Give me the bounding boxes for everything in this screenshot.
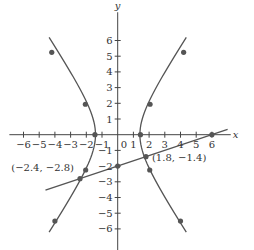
y-tick-label: 2: [106, 98, 112, 109]
data-point: [181, 50, 186, 55]
labels: −6−5−4−3−2−1123456−6−5−4−3−2−11234560xy(…: [11, 0, 238, 234]
intersection-label: (1.8, −1.4): [152, 152, 206, 163]
data-point: [92, 132, 97, 137]
y-tick-label: 5: [106, 51, 112, 62]
x-tick-label: −4: [48, 139, 63, 150]
data-point: [147, 102, 152, 107]
y-tick-label: 3: [106, 82, 112, 93]
origin-label: 0: [121, 139, 127, 150]
y-tick-label: −2: [98, 161, 113, 172]
x-tick-label: 1: [130, 139, 136, 150]
data-point: [138, 132, 143, 137]
hyperbola-line-plot: −6−5−4−3−2−1123456−6−5−4−3−2−11234560xy(…: [0, 0, 254, 250]
y-tick-label: −1: [98, 145, 113, 156]
x-axis-label: x: [233, 129, 239, 140]
x-tick-label: 6: [209, 139, 215, 150]
y-tick-label: −4: [98, 192, 113, 203]
x-tick-label: −3: [63, 139, 78, 150]
data-point: [115, 164, 120, 169]
y-tick-label: −5: [98, 208, 113, 219]
data-point: [83, 167, 88, 172]
x-tick-label: 3: [162, 139, 168, 150]
x-tick-label: −5: [32, 139, 47, 150]
data-point: [52, 218, 57, 223]
y-tick-label: 1: [106, 114, 112, 125]
data-point: [209, 132, 214, 137]
y-axis-label: y: [114, 0, 121, 11]
y-tick-label: −3: [98, 176, 113, 187]
x-tick-label: 2: [146, 139, 152, 150]
x-tick-label: 4: [177, 139, 183, 150]
intersection-point: [77, 176, 82, 181]
data-point: [83, 102, 88, 107]
intersection-label: (−2.4, −2.8): [11, 162, 74, 173]
data-point: [147, 167, 152, 172]
y-tick-label: 4: [106, 66, 112, 77]
intersection-point: [143, 154, 148, 159]
data-point: [49, 50, 54, 55]
x-tick-label: −6: [16, 139, 31, 150]
axes: [9, 12, 230, 250]
data-point: [178, 218, 183, 223]
y-tick-label: −6: [98, 223, 113, 234]
data-points: [49, 50, 214, 224]
x-tick-label: 5: [193, 139, 199, 150]
y-tick-label: 6: [106, 35, 112, 46]
x-tick-label: −2: [79, 139, 94, 150]
